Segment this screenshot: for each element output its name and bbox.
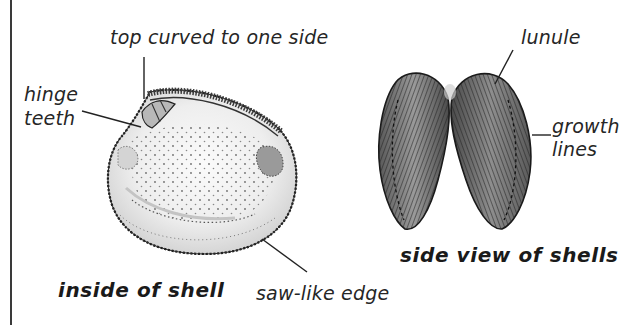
label-hinge: hinge [24, 83, 78, 105]
caption-side-view-of-shells: side view of shells [400, 243, 619, 267]
label-growth: growth [552, 115, 620, 137]
inner-shell-drawing [108, 90, 296, 254]
label-saw-like-edge: saw-like edge [256, 282, 389, 304]
label-teeth: teeth [24, 107, 75, 129]
leader-lunule [495, 50, 513, 84]
leader-saw-edge [262, 239, 307, 272]
side-view-shells-drawing [379, 73, 531, 229]
caption-inside-of-shell: inside of shell [58, 278, 225, 302]
leader-hinge-teeth [82, 111, 141, 127]
label-lunule: lunule [521, 26, 581, 48]
label-lines: lines [552, 138, 597, 160]
label-top-curved: top curved to one side [110, 26, 328, 48]
shell-illustration [0, 0, 630, 325]
